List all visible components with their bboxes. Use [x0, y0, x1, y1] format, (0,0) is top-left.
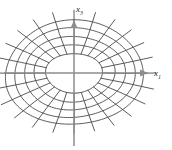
- mesh-spoke: [53, 92, 67, 132]
- mesh-spoke: [102, 57, 152, 67]
- mesh-spoke: [15, 87, 55, 118]
- x3-axis-label-subscript: 3: [79, 10, 83, 16]
- curvilinear-mesh-figure: x1 x3: [0, 0, 172, 150]
- mesh-group: [0, 10, 156, 133]
- x1-axis-arrowhead: [140, 70, 148, 77]
- x3-axis-arrowhead: [71, 20, 78, 28]
- x1-axis-label: x1: [153, 68, 161, 80]
- mesh-spoke: [18, 31, 54, 59]
- x3-axis-label: x3: [75, 4, 83, 16]
- mesh-spoke: [94, 30, 131, 59]
- x1-axis-label-subscript: 1: [158, 74, 161, 80]
- figure-container: x1 x3: [0, 0, 172, 150]
